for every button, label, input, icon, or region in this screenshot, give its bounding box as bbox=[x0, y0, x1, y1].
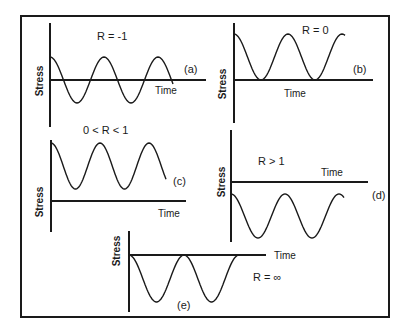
stress-waveform bbox=[129, 255, 240, 302]
time-label: Time bbox=[158, 208, 180, 219]
panel-c: StressTime0 < R < 1(c) bbox=[34, 124, 186, 232]
stress-label: Stress bbox=[217, 68, 228, 99]
stress-label: Stress bbox=[34, 186, 45, 217]
panel-tag: (d) bbox=[372, 189, 385, 201]
panel-b: StressTimeR = 0(b) bbox=[217, 23, 373, 123]
panel-d: StressTimeR > 1(d) bbox=[216, 130, 386, 242]
stress-label: Stress bbox=[111, 235, 122, 266]
time-label: Time bbox=[274, 250, 296, 261]
time-label: Time bbox=[284, 88, 306, 99]
panel-tag: (a) bbox=[184, 63, 197, 75]
time-label: Time bbox=[155, 85, 177, 96]
panel-a: StressTimeR = -1(a) bbox=[34, 23, 206, 127]
r-ratio-label: R > 1 bbox=[258, 155, 285, 167]
stress-label: Stress bbox=[216, 166, 227, 197]
panel-e: StressTimeR = ∞(e) bbox=[111, 231, 297, 312]
stress-waveform bbox=[231, 194, 344, 238]
r-ratio-label: R = 0 bbox=[302, 24, 329, 36]
panel-tag: (b) bbox=[353, 63, 366, 75]
figure-canvas: StressTimeR = -1(a)StressTimeR = 0(b)Str… bbox=[0, 0, 405, 333]
panels-group: StressTimeR = -1(a)StressTimeR = 0(b)Str… bbox=[34, 23, 386, 312]
stress-waveform bbox=[234, 34, 345, 80]
r-ratio-label: R = -1 bbox=[97, 30, 127, 42]
panel-tag: (e) bbox=[177, 299, 190, 311]
panel-tag: (c) bbox=[173, 175, 186, 187]
stress-label: Stress bbox=[34, 65, 45, 96]
r-ratio-label: R = ∞ bbox=[253, 271, 281, 283]
stress-ratio-figure: StressTimeR = -1(a)StressTimeR = 0(b)Str… bbox=[0, 0, 405, 333]
r-ratio-label: 0 < R < 1 bbox=[83, 124, 128, 136]
stress-waveform bbox=[51, 143, 166, 189]
time-label: Time bbox=[321, 167, 343, 178]
